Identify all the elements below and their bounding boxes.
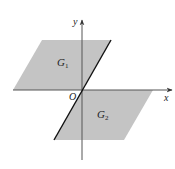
origin-label: O <box>69 91 76 102</box>
y-axis-label: y <box>72 16 78 27</box>
diagram-canvas: y x O G1 G2 <box>0 0 175 169</box>
x-axis-label: x <box>163 92 169 103</box>
coordinate-diagram: y x O G1 G2 <box>0 0 175 169</box>
